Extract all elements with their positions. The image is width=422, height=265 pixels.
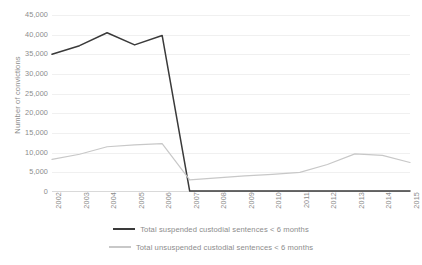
x-tick-label: 2004 bbox=[110, 192, 118, 226]
x-tick-label: 2011 bbox=[303, 192, 311, 226]
legend-item[interactable]: Total suspended custodial sentences < 6 … bbox=[0, 222, 422, 236]
y-tick-label: 10,000 bbox=[4, 149, 48, 157]
series-line-1 bbox=[52, 144, 410, 180]
line-chart: Number of convictions 45,00040,00035,000… bbox=[0, 0, 422, 265]
x-tick-label: 2015 bbox=[413, 192, 421, 226]
x-tick-label: 2006 bbox=[165, 192, 173, 226]
y-tick-label: 25,000 bbox=[4, 90, 48, 98]
x-tick-label: 2003 bbox=[83, 192, 91, 226]
legend-item[interactable]: Total unsuspended custodial sentences < … bbox=[0, 240, 422, 254]
y-tick-label: 35,000 bbox=[4, 50, 48, 58]
legend-label: Total unsuspended custodial sentences < … bbox=[136, 243, 313, 252]
y-tick-label: 30,000 bbox=[4, 70, 48, 78]
x-tick-label: 2012 bbox=[330, 192, 338, 226]
y-tick-label: 15,000 bbox=[4, 129, 48, 137]
x-tick-label: 2010 bbox=[275, 192, 283, 226]
series-lines bbox=[52, 15, 410, 192]
legend-swatch-icon bbox=[113, 228, 135, 230]
legend-swatch-icon bbox=[109, 246, 131, 248]
y-tick-label: 20,000 bbox=[4, 109, 48, 117]
series-line-0 bbox=[52, 33, 410, 191]
plot-area bbox=[52, 15, 410, 192]
y-tick-label: 45,000 bbox=[4, 11, 48, 19]
x-tick-label: 2014 bbox=[385, 192, 393, 226]
x-tick-label: 2013 bbox=[358, 192, 366, 226]
y-tick-label: 5,000 bbox=[4, 168, 48, 176]
y-tick-label: 0 bbox=[4, 188, 48, 196]
x-tick-label: 2005 bbox=[138, 192, 146, 226]
x-tick-label: 2008 bbox=[220, 192, 228, 226]
chart-legend: Total suspended custodial sentences < 6 … bbox=[0, 222, 422, 262]
x-tick-label: 2002 bbox=[55, 192, 63, 226]
x-tick-label: 2007 bbox=[193, 192, 201, 226]
x-tick-label: 2009 bbox=[248, 192, 256, 226]
y-tick-label: 40,000 bbox=[4, 31, 48, 39]
legend-label: Total suspended custodial sentences < 6 … bbox=[140, 225, 309, 234]
